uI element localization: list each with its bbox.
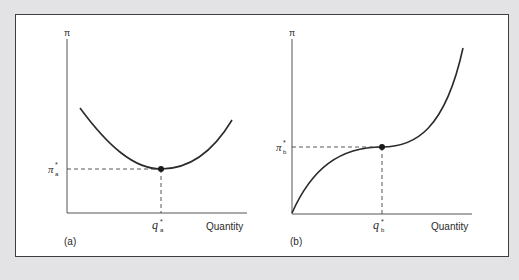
panel-a-label: (a) [64,236,76,247]
panel-b-y-point-star: * [283,139,286,146]
figure-canvas: π π * a q * a Quantity (a) π π * b [0,0,519,280]
panel-b-x-point-sub: b [381,227,385,233]
panel-a-x-point-sub: a [160,227,164,233]
panel-a: π π * a q * a Quantity (a) [48,28,247,247]
panel-b: π π * b q * b Quantity (b) [276,28,472,247]
panel-b-curve [292,48,463,213]
panel-b-y-point-sub: b [283,149,287,155]
panel-a-y-point-sub: a [55,171,59,177]
panel-a-x-point-label: q [152,218,158,232]
panel-b-y-axis-label: π [289,28,295,38]
panel-a-y-axis-label: π [64,28,70,38]
panel-b-x-point-label: q [373,218,379,232]
panel-b-x-axis-label: Quantity [431,221,468,232]
panel-b-inflection-point [379,144,385,150]
panel-a-y-point-star: * [55,161,58,168]
panel-b-x-point-star: * [381,218,384,225]
panel-a-x-point-star: * [160,218,163,225]
panel-a-y-point-label: π [48,163,54,175]
panel-a-x-axis-label: Quantity [206,221,243,232]
panel-a-curve [80,108,232,169]
panel-a-optimum-point [158,166,164,172]
panel-b-label: (b) [290,236,302,247]
panel-b-y-point-label: π [276,141,282,153]
